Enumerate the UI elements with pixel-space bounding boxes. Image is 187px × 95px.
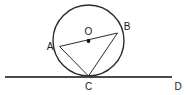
label-point-b: B xyxy=(124,21,131,32)
label-point-o: O xyxy=(85,26,93,37)
geometry-figure: O A B C D xyxy=(0,0,187,95)
label-point-a: A xyxy=(47,41,54,52)
label-point-d: D xyxy=(174,81,181,92)
geometry-canvas: O A B C D xyxy=(0,0,187,95)
segment-ac xyxy=(60,47,89,77)
label-point-c: C xyxy=(85,81,92,92)
segment-bc xyxy=(89,33,118,76)
point-o-dot xyxy=(87,39,91,43)
